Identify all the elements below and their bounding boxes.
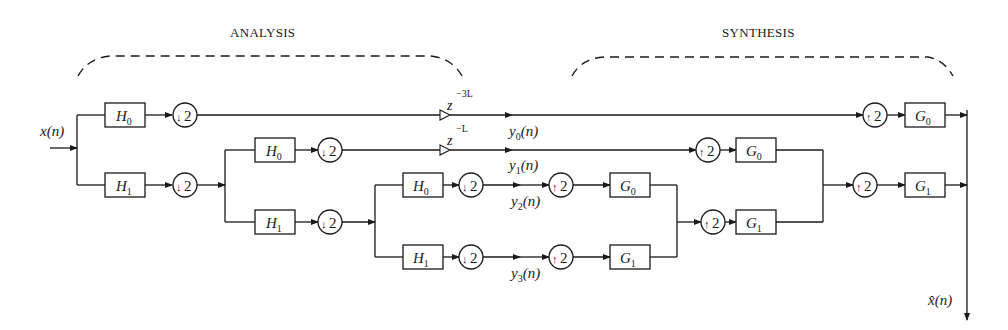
svg-text:−L: −L [456, 123, 468, 134]
stage1-h1-branch: H1 ↓ 2 [105, 150, 255, 222]
svg-text:−3L: −3L [456, 88, 473, 99]
svg-text:2: 2 [707, 143, 715, 159]
y0-label: y0(n) [507, 123, 538, 142]
stage3-h1-branch: H1 ↓ 2 y3(n) ↑ 2 G1 [403, 245, 677, 284]
filter-bank-diagram: ANALYSIS SYNTHESIS x(n) H0 ↓ 2 z −3L y0(… [0, 0, 1008, 330]
output-label: x̂(n) [927, 292, 952, 309]
svg-text:2: 2 [184, 108, 192, 124]
svg-text:2: 2 [470, 178, 478, 194]
y1-label: y1(n) [507, 157, 538, 176]
stage2-h0-branch: H0 ↓ 2 z −L y1(n) ↑ 2 G0 [255, 123, 823, 176]
synthesis-header: SYNTHESIS [722, 25, 795, 40]
analysis-header: ANALYSIS [230, 25, 295, 40]
synthesis-brace [572, 57, 953, 76]
svg-text:2: 2 [560, 250, 568, 266]
synthesis-combine-stage1: ↑ 2 G1 [823, 150, 967, 222]
stage1-h0-branch: H0 ↓ 2 z −3L y0(n) ↑ 2 G0 [105, 88, 967, 142]
svg-text:↓: ↓ [176, 181, 182, 193]
svg-text:↓: ↓ [462, 181, 468, 193]
svg-text:↓: ↓ [176, 111, 182, 123]
svg-text:↓: ↓ [321, 146, 327, 158]
svg-text:2: 2 [864, 178, 872, 194]
stage2-h1-branch: H1 ↓ 2 [255, 185, 403, 257]
svg-text:↑: ↑ [704, 218, 710, 230]
svg-text:↑: ↑ [552, 253, 558, 265]
svg-text:2: 2 [329, 215, 337, 231]
y2-label: y2(n) [509, 193, 540, 212]
analysis-brace [78, 56, 462, 76]
svg-text:2: 2 [470, 250, 478, 266]
svg-text:↓: ↓ [321, 218, 327, 230]
y3-label: y3(n) [509, 265, 540, 284]
svg-text:2: 2 [329, 143, 337, 159]
input-label: x(n) [39, 123, 64, 140]
svg-text:↑: ↑ [699, 146, 705, 158]
svg-text:2: 2 [874, 108, 882, 124]
svg-text:2: 2 [712, 215, 720, 231]
synthesis-combine-stage2: ↑ 2 G1 [677, 185, 823, 257]
stage3-h0-branch: H0 ↓ 2 y2(n) ↑ 2 G0 [403, 173, 677, 212]
svg-text:↓: ↓ [462, 253, 468, 265]
svg-text:↑: ↑ [866, 111, 872, 123]
svg-text:2: 2 [184, 178, 192, 194]
svg-text:↑: ↑ [856, 181, 862, 193]
svg-text:↑: ↑ [552, 181, 558, 193]
output-signal: x̂(n) [927, 110, 967, 320]
svg-text:z: z [446, 98, 453, 113]
input-signal: x(n) [39, 115, 105, 185]
svg-text:z: z [446, 133, 453, 148]
svg-text:2: 2 [560, 178, 568, 194]
